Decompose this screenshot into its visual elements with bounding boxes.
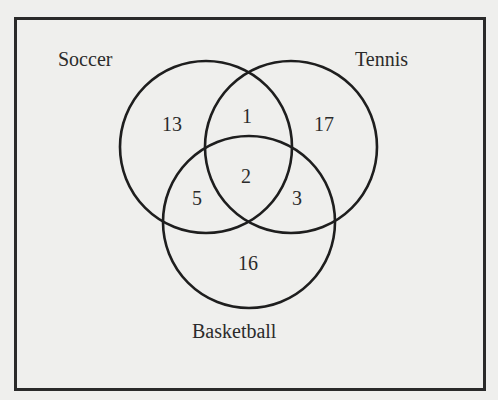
venn-diagram: Soccer Tennis Basketball 13 1 17 2 5 3 1…: [0, 0, 498, 400]
soccer-label: Soccer: [58, 48, 113, 70]
region-soccer-tennis: 1: [242, 105, 252, 127]
region-basketball-only: 16: [238, 252, 258, 274]
basketball-label: Basketball: [192, 320, 277, 342]
region-soccer-only: 13: [162, 113, 182, 135]
region-tennis-only: 17: [314, 113, 334, 135]
tennis-label: Tennis: [355, 48, 408, 70]
region-all-three: 2: [241, 165, 251, 187]
venn-diagram-canvas: Soccer Tennis Basketball 13 1 17 2 5 3 1…: [0, 0, 498, 400]
region-tennis-basketball: 3: [292, 187, 302, 209]
region-soccer-basketball: 5: [192, 187, 202, 209]
